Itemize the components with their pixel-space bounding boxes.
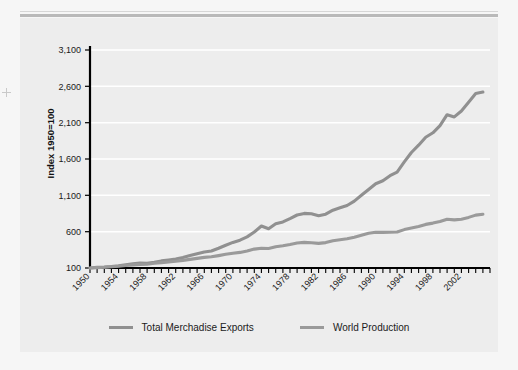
svg-text:1958: 1958 [127,271,148,292]
legend-label-exports: Total Merchadise Exports [142,322,254,333]
svg-text:2,100: 2,100 [58,118,81,128]
svg-text:1974: 1974 [242,271,263,292]
svg-text:100: 100 [66,263,81,273]
svg-text:2,600: 2,600 [58,82,81,92]
svg-text:1950: 1950 [70,271,91,292]
line-swatch-icon [300,326,324,329]
svg-text:1986: 1986 [327,271,348,292]
svg-text:1994: 1994 [384,271,405,292]
svg-text:1,100: 1,100 [58,191,81,201]
svg-text:1966: 1966 [184,271,205,292]
top-hairline [20,11,498,12]
legend-item-production: World Production [300,322,410,333]
svg-text:1982: 1982 [299,271,320,292]
svg-text:1990: 1990 [356,271,377,292]
chart-plot-area: Index 1950=100 1006001,1001,6002,1002,60… [20,18,498,352]
svg-text:3,100: 3,100 [58,45,81,55]
chart-legend: Total Merchadise Exports World Productio… [20,316,498,338]
svg-text:1,600: 1,600 [58,154,81,164]
crop-mark-vertical [6,88,7,97]
svg-text:1970: 1970 [213,271,234,292]
svg-text:1962: 1962 [156,271,177,292]
top-rule-band [20,14,498,17]
svg-text:2002: 2002 [442,271,463,292]
figure-canvas: Index 1950=100 1006001,1001,6002,1002,60… [0,0,518,370]
svg-text:1954: 1954 [99,271,120,292]
legend-label-production: World Production [333,322,410,333]
line-swatch-icon [109,326,133,329]
svg-text:1978: 1978 [270,271,291,292]
svg-text:600: 600 [66,227,81,237]
legend-item-exports: Total Merchadise Exports [109,322,254,333]
svg-text:1998: 1998 [413,271,434,292]
line-chart-svg: 1006001,1001,6002,1002,6003,100195019541… [20,18,498,352]
